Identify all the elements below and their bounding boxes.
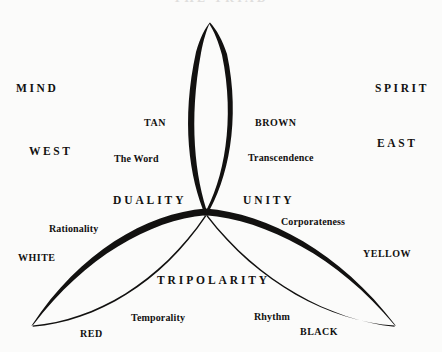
diagram-canvas: THE TRIAD MIND SPIRIT WEST EAST DUALITY … [0, 0, 442, 352]
label-rationality: Rationality [49, 224, 98, 234]
label-black: BLACK [300, 327, 338, 337]
label-brown: BROWN [255, 118, 296, 128]
label-west: WEST [29, 146, 73, 158]
petal-top-right-stroke [203, 23, 233, 216]
label-duality: DUALITY [113, 195, 186, 207]
label-mind: MIND [16, 83, 58, 95]
petal-top-left-stroke [188, 23, 210, 216]
label-the-word: The Word [114, 154, 159, 164]
label-tripolarity: TRIPOLARITY [157, 275, 270, 287]
trefoil-figure [0, 0, 442, 352]
label-tan: TAN [144, 118, 166, 128]
label-east: EAST [377, 138, 417, 150]
label-transcendence: Transcendence [248, 153, 314, 163]
petal-right-thin-arc [207, 216, 395, 327]
label-rhythm: Rhythm [254, 312, 290, 322]
label-corporateness: Corporateness [281, 217, 345, 227]
petal-top [188, 23, 233, 216]
label-temporality: Temporality [131, 313, 185, 323]
label-white: WHITE [18, 253, 56, 263]
label-spirit: SPIRIT [375, 83, 429, 95]
label-red: RED [80, 329, 103, 339]
label-yellow: YELLOW [363, 249, 411, 259]
label-unity: UNITY [243, 195, 295, 207]
